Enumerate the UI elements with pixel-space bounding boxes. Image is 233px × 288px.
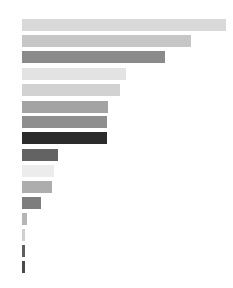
table-row [0, 229, 233, 241]
table-row [0, 51, 233, 63]
table-row [0, 197, 233, 209]
table-row [0, 116, 233, 128]
table-row [0, 149, 233, 161]
bar-1[interactable] [22, 19, 226, 31]
bar-5[interactable] [22, 84, 120, 96]
bar-2[interactable] [22, 35, 191, 47]
bar-11[interactable] [22, 181, 52, 193]
table-row [0, 245, 233, 257]
bar-12[interactable] [22, 197, 41, 209]
table-row [0, 68, 233, 80]
table-row [0, 165, 233, 177]
bar-16[interactable] [22, 261, 25, 273]
table-row [0, 101, 233, 113]
bar-15[interactable] [22, 245, 25, 257]
plot-area [0, 0, 233, 288]
bar-6[interactable] [22, 101, 108, 113]
table-row [0, 261, 233, 273]
bar-10[interactable] [22, 165, 54, 177]
bar-14[interactable] [22, 229, 25, 241]
bar-7[interactable] [22, 116, 107, 128]
bar-13[interactable] [22, 213, 27, 225]
table-row [0, 19, 233, 31]
bar-4[interactable] [22, 68, 126, 80]
table-row [0, 35, 233, 47]
table-row [0, 181, 233, 193]
bar-chart [0, 0, 233, 288]
bar-3[interactable] [22, 51, 165, 63]
table-row [0, 84, 233, 96]
table-row [0, 213, 233, 225]
bar-9[interactable] [22, 149, 58, 161]
table-row [0, 132, 233, 144]
bar-8[interactable] [22, 132, 107, 144]
